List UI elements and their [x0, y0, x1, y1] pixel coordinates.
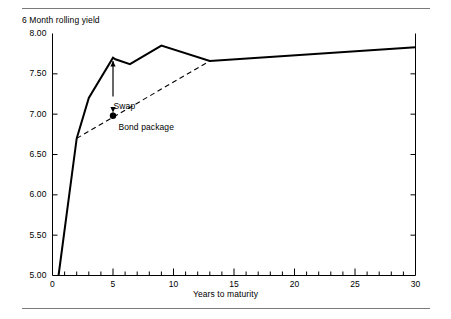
y-axis-tick-label: 7.00 — [13, 109, 47, 119]
bond-package-label: Bond package — [118, 122, 174, 132]
axes — [53, 34, 416, 276]
x-axis-tick-label: 5 — [100, 279, 126, 289]
x-axis-tick-label: 30 — [403, 279, 429, 289]
x-axis-title: Years to maturity — [0, 289, 451, 299]
y-axis-tick-label: 6.00 — [13, 189, 47, 199]
x-axis-tick-label: 0 — [40, 279, 66, 289]
y-axis-tick-label: 6.50 — [13, 149, 47, 159]
yield-curve-line — [59, 46, 416, 276]
x-axis-tick-label: 20 — [282, 279, 308, 289]
x-axis-tick-label: 15 — [221, 279, 247, 289]
data-series — [59, 46, 416, 276]
axis-spines — [53, 34, 416, 276]
y-axis-tick-label: 7.50 — [13, 68, 47, 78]
plot-area — [0, 0, 451, 319]
figure-container: 6 Month rolling yield 5.005.506.006.507.… — [0, 0, 451, 319]
x-axis-tick-label: 25 — [342, 279, 368, 289]
y-axis-tick-label: 5.50 — [13, 230, 47, 240]
bond-package-marker — [110, 113, 116, 119]
swap-label: Swap — [114, 101, 136, 111]
y-axis-tick-label: 8.00 — [13, 28, 47, 38]
x-axis-tick-label: 10 — [161, 279, 187, 289]
